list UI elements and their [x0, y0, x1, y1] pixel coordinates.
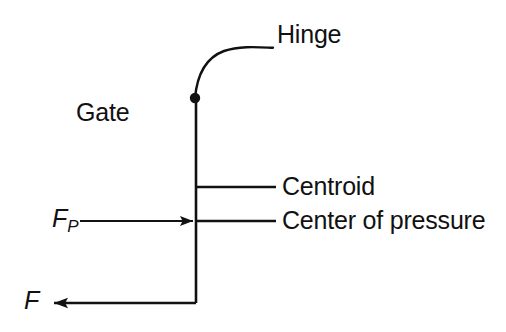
- label-reaction-force-symbol: F: [24, 288, 39, 313]
- hinge-point-dot: [190, 93, 200, 103]
- label-centroid: Centroid: [282, 174, 375, 199]
- diagram-canvas: Hinge Gate Centroid Center of pressure F…: [0, 0, 506, 332]
- label-hinge: Hinge: [277, 22, 341, 47]
- pressure-force-subscript: P: [67, 217, 78, 236]
- label-center-of-pressure: Center of pressure: [282, 208, 485, 233]
- label-pressure-force-symbol: FP: [52, 206, 79, 235]
- gate-schematic-svg: [0, 0, 506, 332]
- hinge-leader-curve: [195, 47, 273, 98]
- label-gate: Gate: [76, 100, 129, 125]
- pressure-force-base: F: [52, 204, 67, 232]
